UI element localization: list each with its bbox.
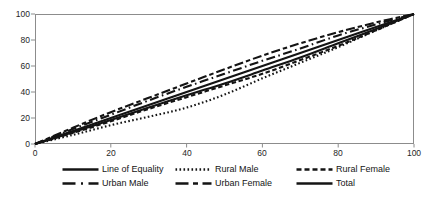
y-axis-tick-label: 40 — [2, 87, 30, 97]
legend-line-swatch — [175, 164, 212, 175]
legend-label: Urban Male — [102, 178, 149, 189]
x-axis-tick-label: 0 — [20, 148, 50, 158]
legend-item-line-of-equality: Line of Equality — [62, 164, 164, 175]
x-axis-tick-label: 80 — [323, 148, 353, 158]
x-axis-tick-label: 40 — [172, 148, 202, 158]
legend-label: Urban Female — [215, 178, 272, 189]
legend-line-swatch — [62, 178, 99, 189]
y-axis-tick-label: 20 — [2, 113, 30, 123]
legend-item-rural-female: Rural Female — [296, 164, 390, 175]
legend-label: Total — [336, 178, 355, 189]
legend-line-swatch — [62, 164, 99, 175]
lorenz-concentration-curve-figure: 0 20 40 60 80 100 0 20 40 60 80 100 Line… — [0, 0, 434, 198]
legend-label: Rural Female — [336, 164, 390, 175]
x-axis-tick-label: 20 — [96, 148, 126, 158]
y-axis-tick-label: 100 — [2, 9, 30, 19]
legend-label: Rural Male — [215, 164, 259, 175]
legend-line-swatch — [296, 178, 333, 189]
legend-label: Line of Equality — [102, 164, 164, 175]
legend-item-urban-female: Urban Female — [175, 178, 272, 189]
legend-item-urban-male: Urban Male — [62, 178, 149, 189]
legend-item-total: Total — [296, 178, 355, 189]
x-axis-tick-label: 100 — [399, 148, 429, 158]
legend-item-rural-male: Rural Male — [175, 164, 259, 175]
legend-line-swatch — [296, 164, 333, 175]
legend-line-swatch — [175, 178, 212, 189]
y-axis-tick-label: 60 — [2, 61, 30, 71]
x-axis-tick-label: 60 — [247, 148, 277, 158]
y-axis-tick-label: 80 — [2, 35, 30, 45]
